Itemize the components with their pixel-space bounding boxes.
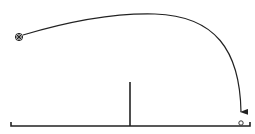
- diagram-canvas: [0, 0, 255, 134]
- asterisk-circle-icon: [15, 33, 22, 40]
- trajectory-diagram: [0, 0, 255, 134]
- target-circle-icon: [239, 121, 243, 125]
- trajectory-arc: [23, 14, 241, 112]
